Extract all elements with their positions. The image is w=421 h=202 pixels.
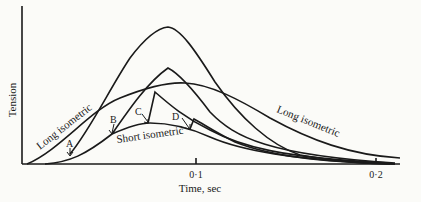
label-long-isometric-right: Long isometric	[275, 103, 342, 139]
label-long-isometric-left: Long isometric	[34, 101, 94, 152]
label-short-isometric: Short isometric	[116, 124, 185, 145]
tick-label-0-2: 0·2	[369, 169, 382, 180]
x-axis-label: Time, sec	[179, 182, 221, 194]
label-B: B	[110, 114, 117, 125]
arrow-C	[142, 114, 148, 123]
tension-time-chart: Tension Time, sec 0·1 0·2 Long isometric…	[0, 0, 421, 202]
tick-label-0-1: 0·1	[189, 169, 202, 180]
y-axis-label: Tension	[6, 82, 18, 117]
label-A: A	[66, 138, 74, 149]
curve-long-isometric	[27, 83, 400, 164]
label-D: D	[172, 111, 179, 122]
label-C: C	[135, 106, 142, 117]
